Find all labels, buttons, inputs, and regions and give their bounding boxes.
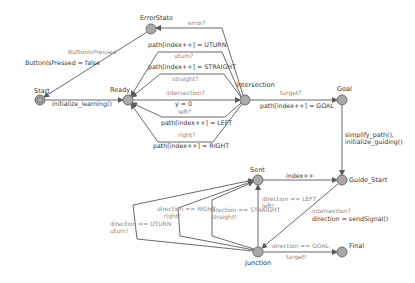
state-error[interactable] bbox=[146, 24, 156, 34]
label-guide-junction-guard: intersection? bbox=[312, 207, 351, 214]
label-right-direction-guard: direction == RIGHT bbox=[157, 205, 216, 212]
label-goal-guide-action: simplify_path(),initialize_guiding() bbox=[345, 131, 403, 146]
label-junction: Junction bbox=[244, 259, 271, 267]
label-uturn-guard: uturn? bbox=[174, 52, 193, 59]
label-error-start-guard: ButtonIsPressed bbox=[68, 48, 116, 55]
label-sent-guide-action: index++ bbox=[286, 172, 314, 179]
label-intersection-action: y = 0 bbox=[175, 100, 192, 108]
label-right-guard: right? bbox=[178, 131, 195, 139]
state-start[interactable] bbox=[35, 95, 45, 105]
state-diagram: Start ErrorState Ready Intersection Goal… bbox=[0, 0, 415, 283]
label-ready: Ready bbox=[110, 86, 130, 94]
state-guide-start[interactable] bbox=[337, 175, 347, 185]
label-final: Final bbox=[349, 242, 364, 250]
label-left-guard: left? bbox=[178, 108, 191, 115]
label-sent: Sent bbox=[250, 166, 265, 174]
label-target-guard: target? bbox=[280, 89, 301, 97]
label-guide-junction-action: direction = sendSignal() bbox=[312, 215, 388, 223]
edge-intersection-error[interactable] bbox=[156, 28, 243, 95]
label-junction-final-guard: direction == GOAL bbox=[272, 242, 330, 249]
state-goal[interactable] bbox=[337, 95, 347, 105]
label-straight-direction-guard: direction == STRAIGHT bbox=[210, 206, 281, 213]
label-straight-guard: straight? bbox=[172, 75, 198, 83]
label-junction-final-action: target! bbox=[286, 253, 307, 261]
label-uturn-action: path[index++] = UTURN bbox=[148, 41, 227, 49]
label-error-guard: error? bbox=[188, 19, 206, 26]
label-uturn-direction-action: uturn! bbox=[110, 227, 129, 234]
label-goal: Goal bbox=[337, 85, 352, 93]
state-final[interactable] bbox=[337, 247, 347, 257]
label-error-start-action: ButtonIsPressed = false bbox=[25, 59, 100, 66]
label-intersection-guard: intersection? bbox=[166, 89, 205, 96]
label-uturn-direction-guard: direction == UTURN bbox=[110, 220, 171, 227]
label-straight-direction-action: straight! bbox=[211, 213, 237, 221]
label-guide-start: Guide_Start bbox=[349, 176, 388, 184]
state-intersection[interactable] bbox=[240, 95, 250, 105]
label-left-direction-guard: direction == LEFT bbox=[262, 195, 317, 202]
label-start-ready-action: initialize_learning() bbox=[52, 100, 112, 108]
label-start: Start bbox=[34, 87, 50, 95]
state-junction[interactable] bbox=[253, 247, 263, 257]
label-right-direction-action: right! bbox=[164, 212, 181, 220]
label-goal-action: path[index++] = GOAL bbox=[260, 102, 334, 110]
label-straight-action: path[index++] = STRAIGHT bbox=[148, 63, 236, 71]
label-right-action: path[index++] = RIGHT bbox=[153, 142, 229, 150]
label-error-state: ErrorState bbox=[140, 14, 173, 22]
label-left-action: path[index++] = LEFT bbox=[161, 119, 232, 127]
label-intersection: Intersection bbox=[236, 81, 275, 89]
state-sent[interactable] bbox=[253, 175, 263, 185]
state-ready[interactable] bbox=[123, 95, 133, 105]
